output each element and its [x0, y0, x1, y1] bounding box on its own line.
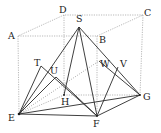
- label-D: D: [59, 4, 67, 15]
- edge-UE: [19, 77, 56, 114]
- vertex-E: [18, 113, 21, 116]
- label-V: V: [119, 58, 127, 69]
- edge-DA: [18, 15, 64, 36]
- label-U: U: [50, 65, 58, 76]
- label-W: W: [100, 58, 110, 69]
- edge-EG: [19, 95, 140, 114]
- label-G: G: [143, 91, 151, 102]
- label-B: B: [99, 34, 106, 45]
- edge-SE: [19, 27, 79, 114]
- edge-AE: [18, 36, 19, 114]
- solid-edges: [19, 27, 140, 116]
- edge-BC: [97, 15, 143, 36]
- label-C: C: [144, 7, 151, 18]
- label-A: A: [7, 30, 15, 41]
- label-E: E: [8, 112, 15, 123]
- cube-pyramid-diagram: A B C D E F G H S T U V W: [0, 0, 161, 133]
- label-S: S: [76, 13, 83, 24]
- label-F: F: [93, 118, 100, 129]
- label-H: H: [61, 96, 69, 107]
- edge-CG: [140, 15, 143, 95]
- label-T: T: [34, 57, 41, 68]
- vertex-G: [139, 94, 141, 96]
- edge-EF: [19, 114, 97, 116]
- vertex-F: [96, 115, 98, 117]
